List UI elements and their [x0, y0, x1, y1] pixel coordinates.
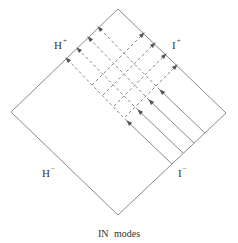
in-mode-solid-line: [138, 110, 183, 153]
reflected-mode-line: [92, 33, 144, 85]
in-mode-solid-line: [160, 90, 205, 133]
label-i-plus: I+: [172, 40, 181, 51]
in-mode-solid-line: [149, 100, 194, 143]
reflected-mode-line: [114, 54, 166, 106]
label-h-minus: H−: [42, 168, 55, 179]
penrose-diagram: [0, 0, 238, 243]
reflected-mode-line: [103, 43, 155, 95]
reflected-modes: [92, 33, 177, 117]
in-modes: [66, 27, 205, 164]
in-mode-solid-line: [127, 121, 172, 164]
caption: IN modes: [0, 228, 238, 239]
label-h-plus: H+: [54, 40, 67, 51]
in-mode-transmitted-line: [98, 27, 160, 90]
label-i-minus: I−: [178, 168, 187, 179]
reflected-mode-line: [125, 65, 177, 117]
